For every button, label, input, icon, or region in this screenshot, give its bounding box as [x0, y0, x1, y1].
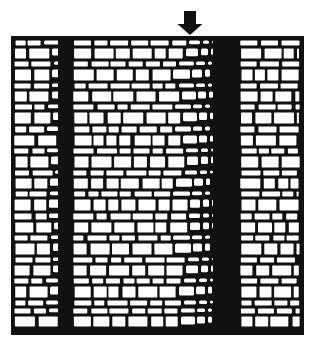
- latewood-band-2: [213, 36, 240, 335]
- arrow-down-icon: [178, 11, 203, 35]
- latewood-band-1: [58, 36, 73, 335]
- cell-walls: [11, 36, 304, 335]
- cell-grid-illustration: [0, 0, 315, 348]
- wood-cell-diagram: [0, 0, 315, 348]
